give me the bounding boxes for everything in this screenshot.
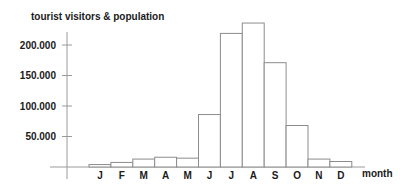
- x-axis-label: month: [362, 168, 393, 179]
- x-tick-label: F: [119, 170, 125, 181]
- x-tick-label: J: [207, 170, 213, 181]
- x-tick-label: J: [229, 170, 235, 181]
- bars: [89, 23, 352, 167]
- y-tick-label: 200.000: [20, 40, 57, 51]
- y-tick-label: 100.000: [20, 101, 57, 112]
- x-ticks: JFMAMJJASOND: [97, 170, 344, 181]
- bar-4: [177, 158, 199, 167]
- x-tick-label: J: [97, 170, 103, 181]
- y-tick-label: 150.000: [20, 70, 57, 81]
- bar-2: [133, 159, 155, 167]
- bar-9: [286, 126, 308, 167]
- x-tick-label: D: [337, 170, 344, 181]
- bar-3: [155, 157, 177, 167]
- y-ticks: 50.000100.000150.000200.000: [20, 40, 72, 143]
- bar-6: [220, 33, 242, 167]
- bar-7: [242, 23, 264, 167]
- x-tick-label: M: [140, 170, 148, 181]
- bar-0: [89, 165, 111, 167]
- x-tick-label: N: [315, 170, 322, 181]
- bar-8: [264, 63, 286, 167]
- bar-10: [308, 159, 330, 167]
- x-tick-label: A: [162, 170, 169, 181]
- bar-chart: tourist visitors & population 50.000100.…: [0, 0, 410, 189]
- x-tick-label: A: [250, 170, 257, 181]
- x-tick-label: O: [293, 170, 301, 181]
- y-tick-label: 50.000: [25, 131, 56, 142]
- x-tick-label: S: [272, 170, 279, 181]
- x-tick-label: M: [183, 170, 191, 181]
- bar-11: [330, 162, 352, 167]
- bar-5: [199, 115, 221, 167]
- chart-title: tourist visitors & population: [31, 11, 164, 22]
- bar-1: [111, 162, 133, 167]
